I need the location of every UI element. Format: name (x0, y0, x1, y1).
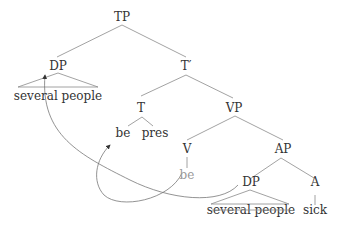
tree-branches (18, 25, 315, 205)
node-t-be: be (116, 126, 131, 140)
node-v: V (182, 142, 192, 156)
node-vp: VP (225, 101, 243, 115)
node-a: A (310, 175, 320, 189)
node-t-pres: pres (142, 126, 169, 140)
node-dp-top: DP (49, 59, 67, 73)
node-dp-low: DP (242, 175, 260, 189)
head-movement-arrow (97, 145, 182, 202)
node-t-bar: T′ (181, 59, 192, 73)
node-a-sick: sick (303, 203, 328, 217)
node-t: T (137, 101, 145, 115)
node-dp-top-yield: several people (14, 89, 102, 103)
node-tp: TP (114, 10, 130, 24)
node-ap: AP (274, 142, 292, 156)
syntax-tree: TP DP several people T′ T be pres VP V b… (0, 0, 340, 228)
node-v-be-trace: be (180, 168, 195, 182)
